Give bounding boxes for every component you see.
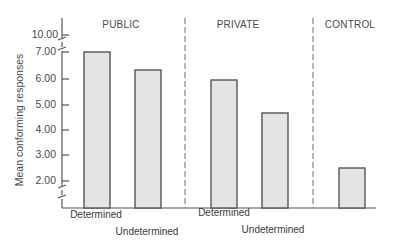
y-axis bbox=[58, 18, 69, 208]
group-label-private: PRIVATE bbox=[217, 19, 260, 30]
bar-private-undetermined bbox=[262, 113, 288, 208]
bar-control bbox=[339, 168, 365, 208]
y-axis-title: Mean conforming responses bbox=[13, 54, 25, 187]
axis-break-mark bbox=[58, 195, 66, 198]
category-label: Determined bbox=[198, 207, 250, 218]
category-label: Undetermined bbox=[116, 226, 179, 237]
y-tick-label: 5.00 bbox=[36, 98, 57, 110]
category-label: Determined bbox=[70, 209, 122, 220]
y-tick-label: 10.00 bbox=[32, 28, 58, 40]
bar-chart: Mean conforming responses 10.00 7.00 6.0… bbox=[0, 0, 393, 252]
bar-public-determined bbox=[84, 52, 110, 208]
group-label-control: CONTROL bbox=[325, 19, 376, 30]
group-label-public: PUBLIC bbox=[102, 19, 139, 30]
axis-break-mark bbox=[58, 47, 66, 50]
y-tick-label: 6.00 bbox=[36, 72, 57, 84]
bar-private-determined bbox=[211, 80, 237, 208]
y-tick-label: 3.00 bbox=[36, 148, 57, 160]
y-tick-label: 7.00 bbox=[36, 45, 57, 57]
y-tick-label: 4.00 bbox=[36, 123, 57, 135]
bar-public-undetermined bbox=[135, 70, 161, 208]
category-label: Undetermined bbox=[242, 224, 305, 235]
y-tick-label: 2.00 bbox=[36, 174, 57, 186]
